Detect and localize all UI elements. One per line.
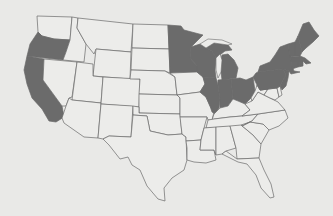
state-new-mexico: New Mexico — [98, 104, 133, 139]
state-arizona: Arizona — [62, 98, 101, 138]
state-colorado: Colorado — [101, 77, 140, 107]
state-maine: Maine — [298, 22, 319, 52]
state-connecticut: Connecticut — [291, 61, 298, 69]
state-kansas: Kansas — [139, 94, 180, 114]
state-south-dakota: South Dakota — [131, 48, 170, 73]
state-wyoming: Wyoming — [93, 49, 131, 79]
state-layer: WashingtonOregonCaliforniaIdahoNevadaMon… — [24, 16, 319, 201]
state-north-dakota: North Dakota — [132, 24, 169, 49]
us-map: WashingtonOregonCaliforniaIdahoNevadaMon… — [0, 0, 333, 216]
state-rhode-island: Rhode Island — [298, 61, 303, 67]
